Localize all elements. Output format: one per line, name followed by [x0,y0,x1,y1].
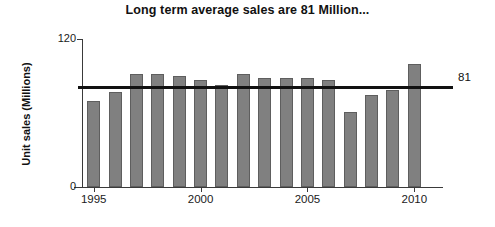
bar-2001 [215,85,228,187]
bar-1998 [151,74,164,187]
bar-2005 [301,78,314,187]
bar-2002 [237,74,250,187]
y-axis-title: Unit sales (Millions) [20,44,32,184]
x-tick-label-1995: 1995 [64,193,124,205]
bar-1997 [130,74,143,187]
bar-2006 [322,80,335,187]
bar-1995 [87,101,100,187]
x-tick-label-2010: 2010 [384,193,444,205]
bar-series [83,39,425,187]
bar-2007 [344,112,357,187]
bar-2008 [365,95,378,188]
x-tick-label-2000: 2000 [171,193,231,205]
x-tick-2010 [414,187,415,192]
long-term-average-label: 81 [458,71,471,83]
bar-1999 [173,76,186,187]
x-tick-2000 [201,187,202,192]
plot-area [83,39,425,187]
bar-2004 [280,78,293,187]
x-tick-label-2005: 2005 [277,193,337,205]
chart-title: Long term average sales are 81 Million..… [0,3,495,17]
bar-2009 [386,90,399,187]
y-tick-label-120: 120 [36,32,76,44]
x-tick-2005 [307,187,308,192]
bar-1996 [109,92,122,187]
bar-2003 [258,78,271,187]
x-tick-1995 [94,187,95,192]
long-term-average-line [78,86,453,89]
bar-2000 [194,80,207,187]
bar-chart: Long term average sales are 81 Million..… [0,0,495,227]
bar-2010 [408,64,421,187]
x-axis-labels: 1995200020052010 [0,193,495,213]
